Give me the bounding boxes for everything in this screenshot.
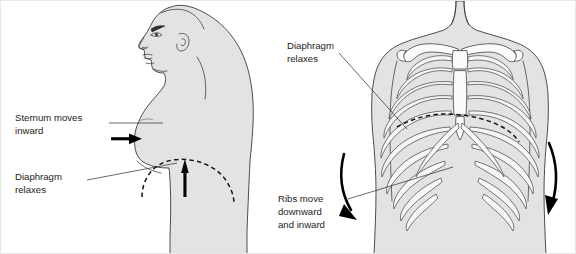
label-diaphragm-right-line1: Diaphragm — [287, 40, 334, 51]
manubrium-bone — [452, 51, 468, 69]
label-sternum-moves-inward: Sternum moves inward — [15, 112, 85, 136]
anterior-view-panel — [339, 1, 558, 254]
label-diaphragm-left-line1: Diaphragm — [15, 171, 62, 182]
label-diaphragm-right-line2: relaxes — [287, 53, 318, 64]
label-sternum-line2: inward — [15, 125, 43, 136]
leader-line-diaphragm-left — [87, 163, 177, 180]
label-ribs-move-downward-inward: Ribs move downward and inward — [278, 193, 326, 230]
label-ribs-line3: and inward — [278, 219, 325, 230]
chin-line — [146, 63, 154, 64]
eye-pupil-icon — [155, 33, 158, 36]
lateral-view-panel — [111, 5, 253, 254]
curved-arrow-down-left-icon — [339, 154, 357, 220]
anatomy-figure: Sternum moves inward Diaphragm relaxes D… — [0, 0, 576, 254]
lateral-body-silhouette — [135, 5, 254, 254]
label-ribs-line1: Ribs move — [278, 193, 323, 204]
label-sternum-line1: Sternum moves — [15, 112, 82, 123]
figure-canvas: Sternum moves inward Diaphragm relaxes D… — [1, 1, 576, 254]
label-diaphragm-relaxes-left: Diaphragm relaxes — [15, 171, 65, 195]
label-diaphragm-left-line2: relaxes — [15, 184, 46, 195]
curved-arrow-down-right-icon — [545, 143, 558, 215]
label-diaphragm-relaxes-right: Diaphragm relaxes — [287, 40, 337, 64]
label-ribs-line2: downward — [278, 206, 322, 217]
sternum-body-bone — [453, 71, 467, 115]
